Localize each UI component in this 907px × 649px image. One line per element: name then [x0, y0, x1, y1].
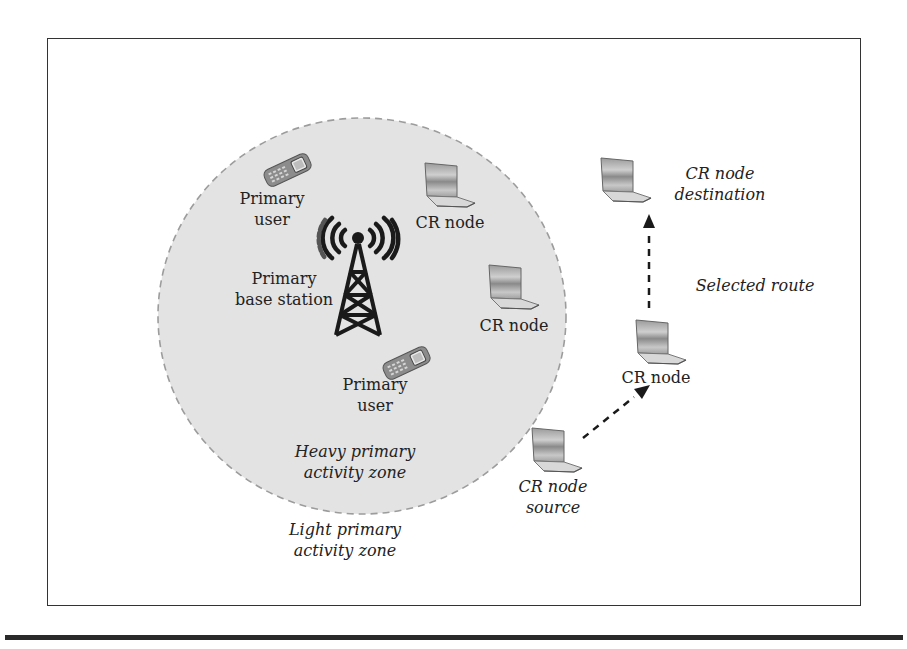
cr-node-label-text: CR node [405, 212, 495, 233]
base-station-label-line2: base station [232, 289, 336, 310]
destination-label-line1: CR node [665, 163, 775, 184]
destination-label: CR node destination [665, 163, 775, 205]
primary-user-label: Primary user [335, 374, 415, 416]
laptop-icon [601, 158, 651, 202]
primary-user-label-line1: Primary [232, 188, 312, 209]
light-zone-label-line1: Light primary [270, 519, 420, 540]
primary-user-label-line2: user [335, 395, 415, 416]
source-label-line2: source [508, 497, 598, 518]
cr-node-label-text: CR node [469, 315, 559, 336]
heavy-zone-label-line2: activity zone [280, 462, 430, 483]
cr-node-label: CR node [469, 315, 559, 336]
cr-node-label: CR node [405, 212, 495, 233]
destination-label-line2: destination [665, 184, 775, 205]
primary-user-label: Primary user [232, 188, 312, 230]
primary-user-label-line1: Primary [335, 374, 415, 395]
heavy-zone-label: Heavy primary activity zone [280, 441, 430, 483]
laptop-icon [532, 428, 582, 472]
diagram-canvas [0, 0, 907, 649]
source-label-line1: CR node [508, 476, 598, 497]
cr-node-label-text: CR node [611, 367, 701, 388]
base-station-label: Primary base station [232, 268, 336, 310]
cr-node-label: CR node [611, 367, 701, 388]
laptop-icon [636, 320, 686, 364]
primary-user-label-line2: user [232, 209, 312, 230]
selected-route-label: Selected route [690, 275, 820, 296]
base-station-label-line1: Primary [232, 268, 336, 289]
selected-route-label-text: Selected route [690, 275, 820, 296]
source-label: CR node source [508, 476, 598, 518]
heavy-zone-label-line1: Heavy primary [280, 441, 430, 462]
light-zone-label: Light primary activity zone [270, 519, 420, 561]
light-zone-label-line2: activity zone [270, 540, 420, 561]
